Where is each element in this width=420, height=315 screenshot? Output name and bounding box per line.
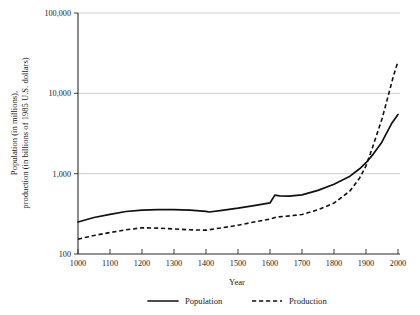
x-axis-title: Year [229, 277, 245, 287]
chart-figure: 100,00010,0001,000100 100011001200130014… [0, 0, 420, 315]
y-tick-label: 10,000 [48, 89, 71, 98]
x-tick-label: 1300 [166, 259, 182, 268]
x-tick-label: 1500 [230, 259, 246, 268]
x-tick-label: 1600 [262, 259, 278, 268]
x-tick-label: 1400 [198, 259, 214, 268]
x-tick-label: 1000 [70, 259, 86, 268]
y-axis-title-line1: Population (in millions), [9, 91, 19, 175]
legend-label-population: Population [185, 296, 223, 306]
x-tick-label: 1200 [134, 259, 150, 268]
legend-label-production: Production [289, 296, 327, 306]
y-tick-label: 100,000 [44, 9, 71, 18]
x-tick-label: 1700 [294, 259, 310, 268]
y-tick-label: 1,000 [53, 170, 71, 179]
y-axis-title-line2: production (in billions of 1985 U.S. dol… [20, 57, 30, 208]
y-tick-label: 100 [59, 250, 71, 259]
x-tick-label: 1800 [326, 259, 342, 268]
x-tick-label: 2000 [390, 259, 406, 268]
line-chart: 100,00010,0001,000100 100011001200130014… [0, 0, 420, 315]
x-tick-label: 1100 [102, 259, 118, 268]
x-tick-label: 1900 [358, 259, 374, 268]
